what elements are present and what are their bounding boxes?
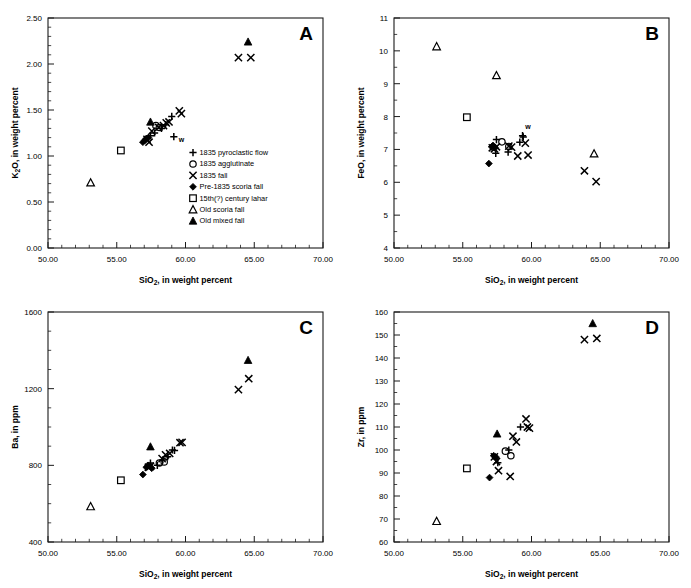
data-points: [433, 320, 601, 525]
legend-item: 1835 fall: [189, 171, 227, 180]
marker-plus: [520, 133, 527, 140]
marker-cross: [524, 151, 531, 158]
marker-cross: [189, 172, 196, 179]
y-axis-title: Zr, in ppm: [356, 406, 366, 447]
legend-item-label: 15th(?) century lahar: [200, 194, 269, 203]
y-tick-label: 0.00: [26, 244, 42, 253]
legend-item: Old mixed fall: [189, 216, 244, 225]
series-cross: [143, 54, 254, 146]
x-tick-label: 55.00: [107, 255, 128, 264]
axes: 50.0055.0060.0065.0070.000.000.501.001.5…: [10, 14, 334, 286]
legend-item: 1835 agglutinate: [190, 159, 254, 168]
y-tick-label: 1600: [24, 308, 42, 317]
x-tick-label: 65.00: [244, 255, 265, 264]
series-square-open: [118, 147, 125, 154]
marker-triangle-open: [590, 150, 598, 157]
point-annotation-w: w: [524, 123, 531, 130]
marker-cross: [514, 152, 521, 159]
y-tick-label: 150: [375, 331, 389, 340]
data-points: [87, 356, 253, 509]
panel-letter: B: [645, 23, 659, 44]
marker-cross: [495, 467, 502, 474]
y-tick-label: 9: [384, 80, 389, 89]
x-tick-label: 50.00: [38, 255, 59, 264]
marker-triangle-filled: [189, 217, 197, 224]
x-tick-label: 60.00: [521, 255, 542, 264]
y-tick-label: 4: [384, 244, 389, 253]
series-triangle-filled: [147, 38, 252, 125]
plot-B: 50.0055.0060.0065.0070.004567891011SiO2,…: [346, 0, 691, 294]
x-tick-label: 65.00: [590, 255, 611, 264]
y-tick-label: 1.00: [26, 152, 42, 161]
marker-triangle-filled: [244, 38, 252, 45]
y-tick-label: 140: [375, 354, 389, 363]
x-axis-title: SiO2, in weight percent: [139, 275, 232, 286]
y-axis-title: K2O, in weight percent: [10, 87, 21, 178]
x-axis-title: SiO2, in weight percent: [485, 569, 578, 580]
marker-triangle-filled: [147, 443, 155, 450]
y-tick-label: 8: [384, 113, 389, 122]
legend-item: Pre-1835 scoria fall: [190, 182, 264, 191]
marker-triangle-open: [493, 72, 501, 79]
series-diamond-filled: [485, 142, 498, 167]
y-tick-label: 80: [379, 492, 388, 501]
marker-cross: [593, 178, 600, 185]
marker-triangle-filled: [589, 320, 597, 327]
marker-cross: [522, 415, 529, 422]
y-tick-label: 0.50: [26, 198, 42, 207]
x-tick-label: 70.00: [313, 255, 334, 264]
x-tick-label: 65.00: [590, 549, 611, 558]
legend-item-label: Pre-1835 scoria fall: [200, 182, 264, 191]
x-tick-label: 55.00: [453, 255, 474, 264]
x-tick-label: 70.00: [313, 549, 334, 558]
marker-triangle-open: [87, 503, 95, 510]
axes: 50.0055.0060.0065.0070.0040080012001600S…: [10, 308, 334, 580]
marker-triangle-filled: [493, 430, 501, 437]
series-square-open: [464, 114, 471, 121]
series-cross: [491, 335, 601, 480]
marker-circle-open: [190, 161, 196, 167]
panel-letter: D: [645, 317, 659, 338]
y-axis-title: FeO, in weight percent: [356, 87, 366, 178]
y-tick-label: 1.50: [26, 106, 42, 115]
y-tick-label: 400: [29, 538, 43, 547]
marker-square-open: [118, 147, 125, 154]
legend-item: 15th(?) century lahar: [190, 194, 269, 203]
y-axis-title: Ba, in ppm: [10, 405, 20, 449]
panel-letter: A: [299, 23, 313, 44]
marker-triangle-filled: [244, 356, 252, 363]
marker-diamond-filled: [139, 471, 146, 478]
axes: 50.0055.0060.0065.0070.004567891011SiO2,…: [356, 14, 680, 286]
series-square-open: [464, 465, 471, 472]
y-tick-label: 90: [379, 469, 388, 478]
marker-diamond-filled: [190, 183, 197, 190]
y-tick-label: 5: [384, 211, 389, 220]
panel-letter: C: [299, 317, 313, 338]
series-triangle-open: [433, 517, 441, 524]
x-axis-title: SiO2, in weight percent: [139, 569, 232, 580]
x-tick-label: 70.00: [659, 549, 680, 558]
series-square-open: [118, 477, 125, 484]
marker-triangle-open: [189, 206, 197, 213]
legend-item-label: 1835 pyroclastic flow: [200, 148, 269, 157]
marker-cross: [235, 386, 242, 393]
marker-plus: [170, 133, 177, 140]
data-points: w: [433, 43, 600, 186]
series-triangle-open: [87, 503, 95, 510]
marker-square-open: [464, 114, 471, 121]
marker-circle-open: [508, 453, 514, 459]
x-tick-label: 55.00: [453, 549, 474, 558]
x-tick-label: 55.00: [107, 549, 128, 558]
panel-D: 50.0055.0060.0065.0070.00607080901001101…: [346, 294, 691, 588]
marker-triangle-open: [433, 43, 441, 50]
x-tick-label: 50.00: [38, 549, 59, 558]
legend: 1835 pyroclastic flow1835 agglutinate183…: [189, 148, 269, 225]
marker-plus: [189, 149, 196, 156]
marker-plus: [517, 423, 524, 430]
legend-item: Old scoria fall: [189, 205, 244, 214]
y-tick-label: 110: [375, 423, 388, 432]
y-tick-label: 1200: [24, 385, 42, 394]
marker-square-open: [190, 195, 197, 202]
marker-cross: [593, 335, 600, 342]
x-tick-label: 60.00: [175, 549, 196, 558]
